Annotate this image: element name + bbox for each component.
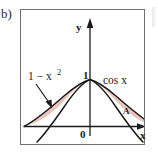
parabola-leader-arrowhead [46,100,53,109]
plot-svg: 1 − x 2 cos x y x 0 1 A [0,0,158,154]
figure-panel: b) 1 − [0,0,158,154]
y-axis-arrowhead [87,18,94,28]
label-parabola-exponent: 2 [57,67,61,77]
label-y-tick-one: 1 [83,69,89,81]
label-parabola: 1 − x [28,70,52,82]
label-cos-x: cos x [103,74,127,86]
label-y-axis: y [76,21,82,33]
label-origin: 0 [80,128,86,140]
label-x-axis: x [140,129,146,141]
label-region-a: A [123,106,130,116]
